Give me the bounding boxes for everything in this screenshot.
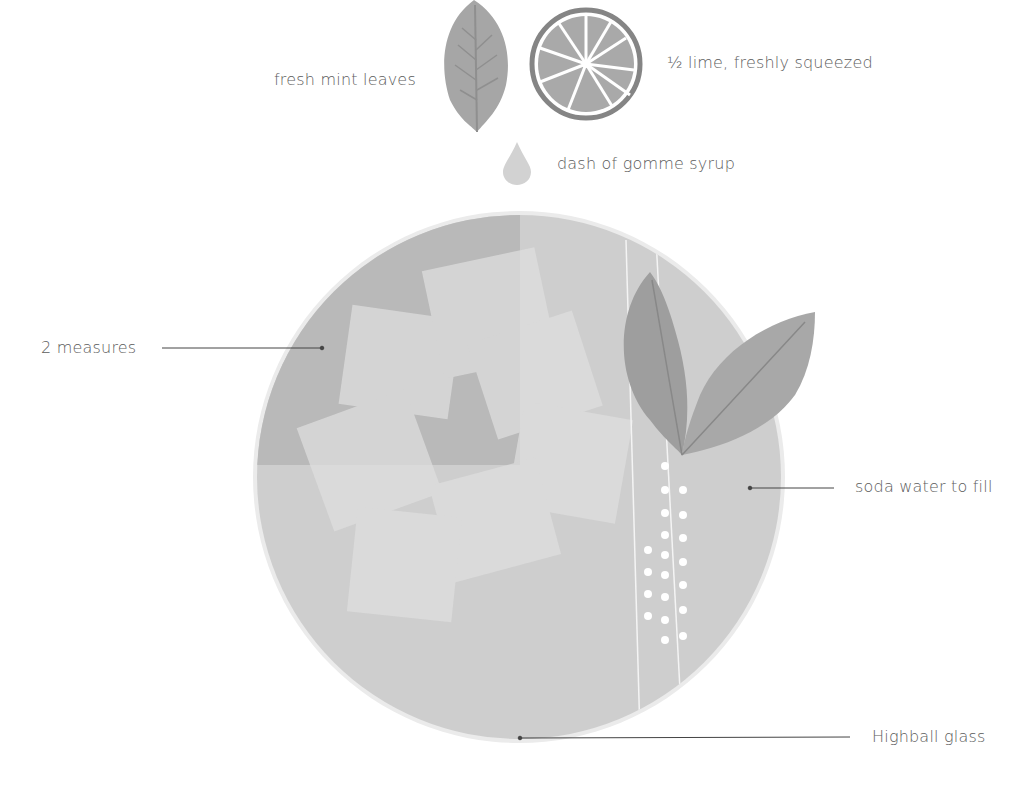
soda-label: soda water to fill [855,477,993,496]
lime-label: ½ lime, freshly squeezed [667,53,873,72]
recipe-illustration [0,0,1027,795]
syrup-label: dash of gomme syrup [557,154,735,173]
syrup-drop-icon [503,142,531,185]
glass-label: Highball glass [872,727,985,746]
spirit-label: 2 measures [41,338,136,357]
mint-label: fresh mint leaves [274,70,416,89]
highball-glass [250,210,815,750]
lime-slice-icon [532,10,640,118]
mint-leaf-icon [444,0,508,132]
